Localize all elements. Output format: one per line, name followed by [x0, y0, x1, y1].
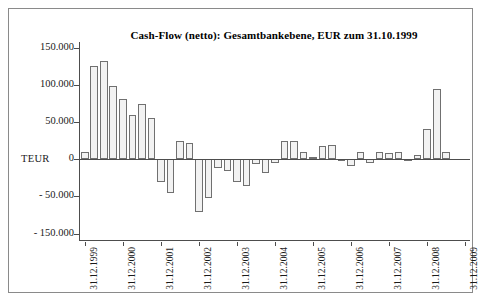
chart-bar	[347, 159, 355, 166]
chart-bar	[224, 159, 232, 171]
chart-bar	[395, 152, 403, 159]
chart-bar	[90, 66, 98, 159]
chart-bar	[357, 152, 365, 159]
x-axis-tick-label: 31.12.2001	[165, 247, 175, 290]
chart-bar	[281, 141, 289, 160]
x-axis-tick-mark	[275, 242, 276, 246]
chart-bar	[205, 159, 213, 198]
x-axis-tick-mark	[389, 242, 390, 246]
chart-bar	[109, 86, 117, 159]
x-axis-tick-mark	[199, 242, 200, 246]
chart-bar	[290, 141, 298, 160]
y-axis-tick-label: 0	[69, 152, 74, 163]
chart-frame: Cash-Flow (netto): Gesamtbankebene, EUR …	[8, 8, 473, 293]
chart-bar	[442, 152, 450, 159]
chart-title: Cash-Flow (netto): Gesamtbankebene, EUR …	[79, 29, 469, 41]
chart-bar	[186, 143, 194, 159]
x-axis-tick-label: 31.12.2005	[317, 247, 327, 290]
x-axis-tick-mark	[351, 242, 352, 246]
y-axis-tick-mark	[74, 159, 80, 160]
chart-bar	[243, 159, 251, 186]
x-axis-tick-label: 31.12.2002	[203, 247, 213, 290]
chart-bar	[148, 118, 156, 159]
chart-bar	[233, 159, 241, 182]
x-axis-tick-label: 31.12.2009	[469, 247, 479, 290]
chart-bar	[81, 152, 89, 159]
chart-bar	[119, 99, 127, 159]
x-axis-tick-label: 31.12.2000	[127, 247, 137, 290]
chart-bar	[167, 159, 175, 193]
y-axis-tick-label: 100.000	[40, 78, 74, 89]
chart-bar	[138, 104, 146, 159]
x-axis-tick-mark	[123, 242, 124, 246]
plot-area	[80, 42, 470, 240]
chart-bar	[214, 159, 222, 168]
chart-bar	[423, 129, 431, 159]
y-axis-labels: 150.000100.00050.0000- 50.000- 150.000	[9, 9, 74, 308]
chart-bar	[319, 146, 327, 159]
x-axis-tick-label: 31.12.2007	[393, 247, 403, 290]
x-axis-tick-label: 31.12.2006	[355, 247, 365, 290]
x-axis-tick-mark	[427, 242, 428, 246]
y-axis-tick-mark	[74, 122, 80, 123]
x-axis-labels: 31.12.199931.12.200031.12.200131.12.2002…	[80, 242, 470, 308]
x-axis-tick-label: 31.12.2004	[279, 247, 289, 290]
y-axis-tick-label: - 150.000	[34, 227, 74, 238]
y-axis-tick-label: 50.000	[45, 115, 74, 126]
x-axis-tick-mark	[313, 242, 314, 246]
x-axis-tick-mark	[85, 242, 86, 246]
y-axis-tick-mark	[74, 196, 80, 197]
chart-bar	[157, 159, 165, 182]
x-axis-tick-label: 31.12.1999	[89, 247, 99, 290]
y-axis-tick-label: 150.000	[40, 41, 74, 52]
x-axis-tick-mark	[237, 242, 238, 246]
x-axis-tick-mark	[465, 242, 466, 246]
zero-baseline	[80, 159, 470, 160]
chart-bar	[376, 152, 384, 159]
chart-bar	[129, 115, 137, 159]
y-axis-tick-mark	[74, 85, 80, 86]
chart-bar	[100, 61, 108, 159]
chart-bar	[300, 152, 308, 159]
chart-bar	[195, 159, 203, 212]
chart-bar	[262, 159, 270, 173]
x-axis-tick-label: 31.12.2008	[431, 247, 441, 290]
chart-bar	[328, 145, 336, 159]
x-axis-tick-mark	[161, 242, 162, 246]
chart-bar	[176, 141, 184, 159]
y-axis-tick-mark	[74, 234, 80, 235]
x-axis-line	[79, 240, 470, 241]
chart-bar	[433, 89, 441, 159]
y-axis-tick-mark	[74, 48, 80, 49]
y-axis-tick-label: - 50.000	[39, 189, 74, 200]
x-axis-tick-label: 31.12.2003	[241, 247, 251, 290]
